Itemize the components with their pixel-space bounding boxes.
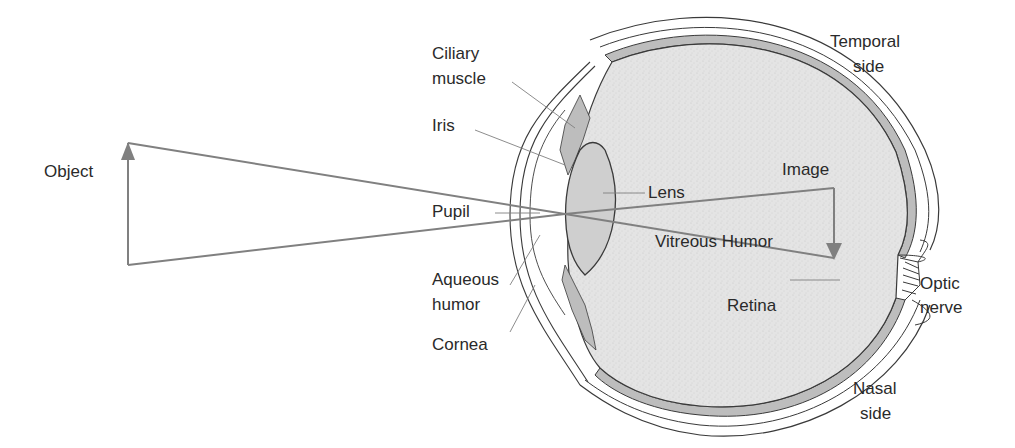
label-temporal-side-line1: Temporal <box>830 32 900 51</box>
label-pupil: Pupil <box>432 202 470 221</box>
label-ciliary-muscle-line1: Ciliary <box>432 44 480 63</box>
eye-diagram: Object Ciliary muscle Iris Pupil Aqueous… <box>0 0 1015 448</box>
label-image: Image <box>782 160 829 179</box>
vitreous-body <box>568 44 908 407</box>
label-optic-nerve-line2: nerve <box>920 298 963 317</box>
label-aqueous-humor-line2: humor <box>432 295 481 314</box>
label-ciliary-muscle-line2: muscle <box>432 69 486 88</box>
label-optic-nerve-line1: Optic <box>920 274 960 293</box>
label-retina: Retina <box>727 296 777 315</box>
label-cornea: Cornea <box>432 335 488 354</box>
label-temporal-side-line2: side <box>853 57 884 76</box>
label-vitreous-humor: Vitreous Humor <box>655 232 773 251</box>
label-object: Object <box>44 162 93 181</box>
label-aqueous-humor-line1: Aqueous <box>432 270 499 289</box>
label-nasal-side-line2: side <box>860 404 891 423</box>
label-nasal-side-line1: Nasal <box>853 379 896 398</box>
label-lens: Lens <box>648 183 685 202</box>
label-iris: Iris <box>432 116 455 135</box>
